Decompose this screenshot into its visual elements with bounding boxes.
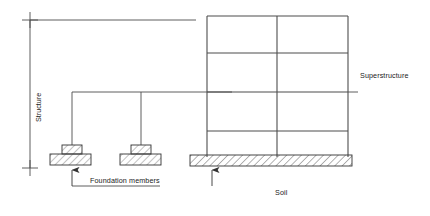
label-superstructure: Superstructure <box>360 71 409 80</box>
footing-right <box>120 145 161 165</box>
label-structure: Structure <box>34 93 43 122</box>
label-soil: Soil <box>275 188 287 197</box>
label-foundation-members: Foundation members <box>90 176 160 185</box>
footing-left <box>50 145 91 165</box>
soil-strip <box>190 155 352 166</box>
diagram-svg <box>0 0 430 216</box>
diagram-canvas: Structure Superstructure Foundation memb… <box>0 0 430 216</box>
superstructure-frame <box>207 16 348 157</box>
grade-leader-line <box>72 92 232 145</box>
